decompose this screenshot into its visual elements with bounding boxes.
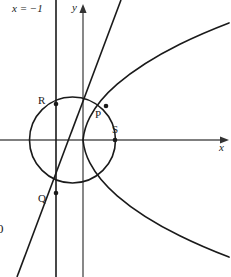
directrix-label: x = −1 <box>12 3 43 14</box>
point-s-label: S <box>112 124 118 135</box>
focal-chord-line <box>17 0 121 277</box>
parabola-lower-branch <box>83 140 229 257</box>
point-q-marker <box>54 191 59 196</box>
point-q-label: Q <box>38 193 46 204</box>
point-r-marker <box>54 102 59 107</box>
parabola-upper-branch <box>83 23 229 140</box>
point-p-marker <box>104 104 109 109</box>
y-axis-label: y <box>72 2 77 13</box>
origin-label: 0 <box>0 222 4 235</box>
point-r-label: R <box>38 95 45 106</box>
y-axis-arrowhead <box>79 4 86 13</box>
point-s-marker <box>113 138 118 143</box>
parabola-figure: x = −1 y x 0 P Q R S <box>0 0 231 277</box>
figure-canvas <box>0 0 231 277</box>
x-axis-label: x <box>219 142 224 153</box>
point-p-label: P <box>95 109 101 120</box>
